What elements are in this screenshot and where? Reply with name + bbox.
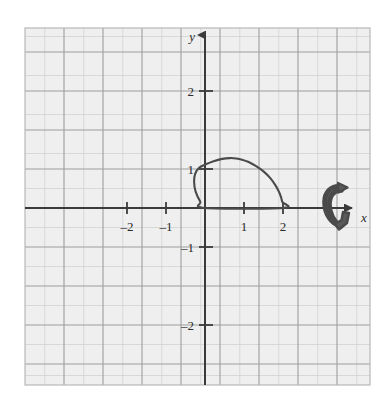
coordinate-plot: –2 –1 1 2 2 1 –1 –2 y x (0, 0, 391, 403)
x-tick-label-1: 1 (241, 219, 248, 234)
x-tick-label--1: –1 (159, 219, 173, 234)
figure-container: –2 –1 1 2 2 1 –1 –2 y x (0, 0, 391, 403)
y-tick-label-1: 1 (188, 162, 195, 177)
y-tick-label--2: –2 (180, 318, 194, 333)
y-tick-label--1: –1 (180, 240, 194, 255)
y-axis-label: y (187, 29, 195, 44)
x-tick-label-2: 2 (280, 219, 287, 234)
y-tick-label-2: 2 (188, 84, 195, 99)
x-tick-label--2: –2 (120, 219, 134, 234)
x-axis-label: x (360, 210, 367, 225)
